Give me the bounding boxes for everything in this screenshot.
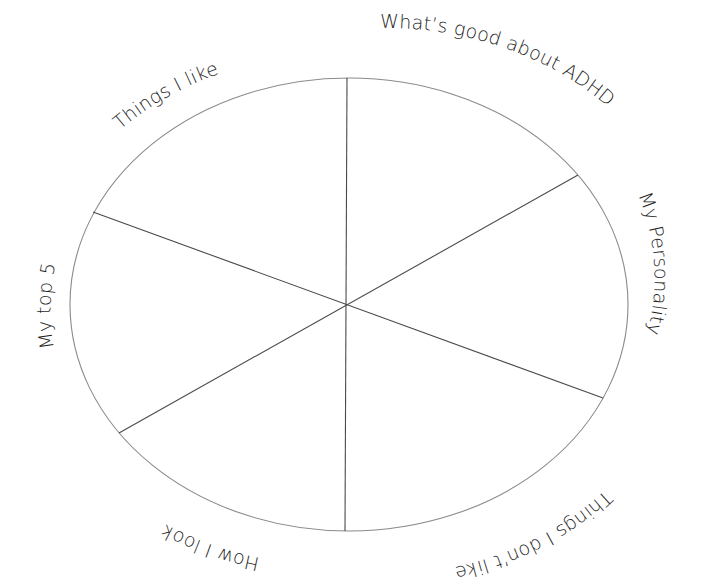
spoke-upleft-downright — [93, 212, 603, 398]
segment-label-how-i-look: How I look — [157, 521, 261, 576]
segment-label-things-i-like: Things I like — [108, 57, 221, 133]
segment-label-my-top-5-text: My top 5 — [32, 261, 59, 351]
segment-label-my-personality: My Personality — [634, 189, 672, 338]
segment-label-whats-good-about-adhd-text: What’s good about ADHD — [380, 10, 620, 110]
segment-label-things-i-like-text: Things I like — [108, 57, 221, 133]
segment-label-my-top-5: My top 5 — [32, 261, 59, 351]
segment-label-how-i-look-text: How I look — [157, 521, 261, 576]
segment-label-my-personality-text: My Personality — [634, 189, 672, 338]
segment-label-whats-good-about-adhd: What’s good about ADHD — [380, 10, 620, 110]
wheel-outline — [70, 78, 628, 531]
segment-label-things-i-dont-like: Things I don’t like — [453, 487, 617, 585]
all-about-me-wheel: Things I like What’s good about ADHD My … — [0, 0, 702, 588]
segment-label-things-i-dont-like-text: Things I don’t like — [453, 487, 617, 585]
spoke-upright-downleft — [119, 175, 578, 433]
